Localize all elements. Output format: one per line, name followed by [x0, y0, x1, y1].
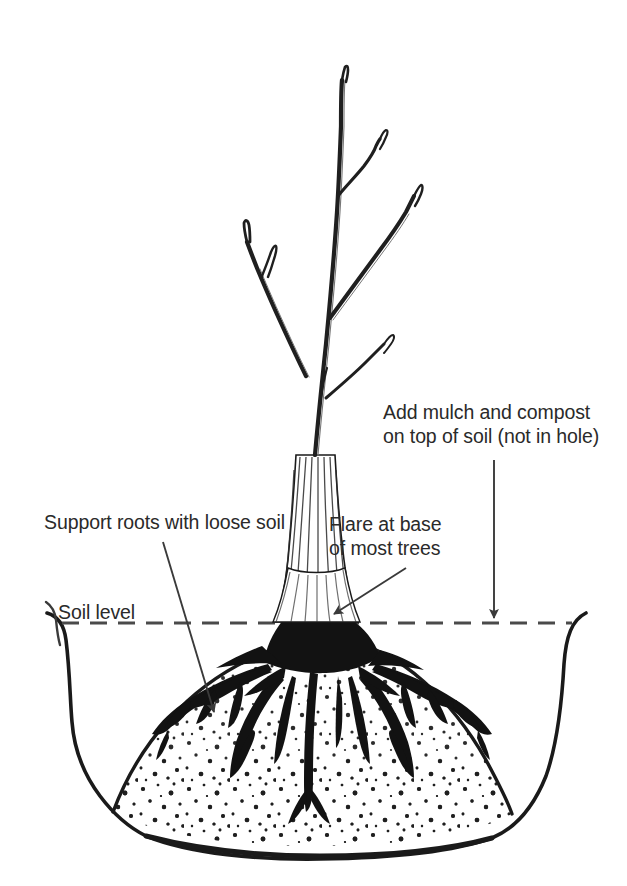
label-support-text: Support roots with loose soil — [44, 511, 285, 533]
tree-canopy-branches — [244, 66, 423, 455]
label-mulch-line1: Add mulch and compost — [383, 401, 590, 423]
label-mulch-callout: Add mulch and composton top of soil (not… — [383, 400, 599, 448]
trunk-flare — [273, 568, 360, 622]
label-soil-level: Soil level — [58, 600, 135, 624]
label-soil-level-text: Soil level — [58, 601, 135, 623]
label-support-callout: Support roots with loose soil — [44, 510, 285, 534]
label-flare-callout: Flare at baseof most trees — [329, 512, 442, 560]
label-mulch-line2: on top of soil (not in hole) — [383, 425, 599, 447]
support-leader-arrow — [163, 542, 214, 712]
label-flare-line1: Flare at base — [329, 513, 442, 535]
label-flare-line2: of most trees — [329, 537, 440, 559]
tree-planting-diagram: Add mulch and composton top of soil (not… — [0, 0, 627, 886]
